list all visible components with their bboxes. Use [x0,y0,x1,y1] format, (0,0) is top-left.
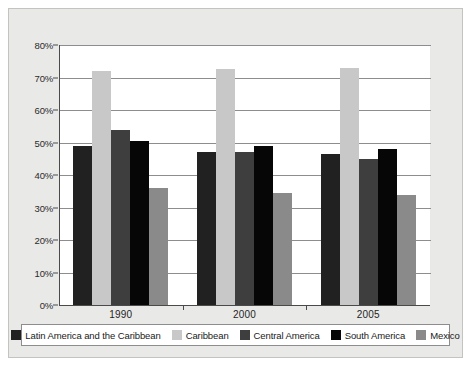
legend-label: South America [345,330,405,341]
y-tick-label: 0% [40,300,53,311]
bar[interactable] [130,141,149,305]
legend-label: Central America [254,330,320,341]
bar-group-2000 [183,45,307,305]
plot-wrapper: 199020002005 [59,37,430,305]
legend-label: Latin America and the Caribbean [25,330,160,341]
legend-swatch-icon [416,330,426,340]
y-tick-label: 60% [35,105,53,116]
legend-swatch-icon [11,330,21,340]
legend-swatch-icon [331,330,341,340]
x-tick-label-1990: 1990 [59,309,183,320]
legend-swatch-icon [172,330,182,340]
bar[interactable] [254,146,273,305]
x-tick-label-2005: 2005 [306,309,430,320]
legend-item[interactable]: Latin America and the Caribbean [11,330,160,341]
bar[interactable] [321,154,340,305]
y-tick-label: 70% [35,72,53,83]
bar-groups [59,45,430,305]
x-tick-mark [183,305,184,310]
x-tick-label-2000: 2000 [183,309,307,320]
bar[interactable] [197,152,216,305]
y-tick-label: 30% [35,202,53,213]
chart-figure: 0%10%20%30%40%50%60%70%80% 199020002005 … [8,8,463,358]
bar[interactable] [111,130,130,306]
y-tick-label: 10% [35,267,53,278]
y-tick-label: 40% [35,170,53,181]
legend-item[interactable]: Mexico [416,330,460,341]
y-tick-mark [53,45,58,46]
y-tick-mark [53,142,58,143]
bar-group-2005 [306,45,430,305]
x-axis-tick-labels: 199020002005 [59,309,430,320]
legend-swatch-icon [240,330,250,340]
legend-item[interactable]: South America [331,330,405,341]
y-tick-mark [53,240,58,241]
y-tick-mark [53,207,58,208]
bar[interactable] [73,146,92,305]
y-tick-mark [53,175,58,176]
chart-legend: Latin America and the CaribbeanCaribbean… [21,324,450,346]
bar[interactable] [92,71,111,305]
y-tick-mark [53,272,58,273]
bar[interactable] [216,69,235,305]
bar[interactable] [273,193,292,305]
y-tick-mark [53,77,58,78]
y-tick-mark [53,110,58,111]
bar[interactable] [340,68,359,305]
bar[interactable] [359,159,378,305]
bar[interactable] [397,195,416,306]
y-tick-label: 80% [35,40,53,51]
y-tick-label: 50% [35,137,53,148]
bar[interactable] [235,152,254,305]
bar[interactable] [378,149,397,305]
y-tick-label: 20% [35,235,53,246]
bar[interactable] [149,188,168,305]
y-axis: 0%10%20%30%40%50%60%70%80% [9,37,53,313]
legend-item[interactable]: Caribbean [172,330,229,341]
bar-group-1990 [59,45,183,305]
legend-label: Mexico [430,330,460,341]
legend-label: Caribbean [186,330,229,341]
legend-item[interactable]: Central America [240,330,320,341]
y-tick-mark [53,305,58,306]
x-tick-mark [306,305,307,310]
